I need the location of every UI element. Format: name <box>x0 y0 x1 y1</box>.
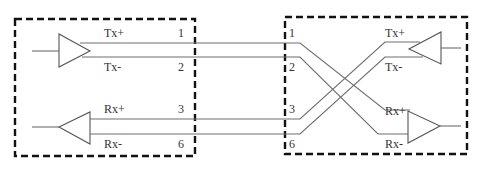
left-receiver-icon <box>59 112 90 144</box>
left-pin-6: 6 <box>178 137 184 151</box>
right-receiver-icon <box>408 111 440 143</box>
left-label-txplus: Tx+ <box>104 26 124 40</box>
wire-pin3-rxplus <box>90 42 420 119</box>
right-label-txminus: Tx- <box>385 60 402 74</box>
right-pin-3: 3 <box>289 102 295 116</box>
wire-pin1-txplus <box>80 43 410 110</box>
right-pin-2: 2 <box>289 60 295 74</box>
right-transmitter-icon <box>409 32 441 64</box>
right-pin-6: 6 <box>289 137 295 151</box>
left-pin-2: 2 <box>178 60 184 74</box>
left-label-rxminus: Rx- <box>104 137 122 151</box>
right-label-rxminus: Rx- <box>385 137 403 151</box>
right-label-txplus: Tx+ <box>385 26 405 40</box>
left-label-rxplus: Rx+ <box>104 102 125 116</box>
crossover-diagram: Tx+ Tx- Rx+ Rx- 1 2 3 6 1 2 3 6 Tx+ Tx- … <box>0 0 479 171</box>
left-label-txminus: Tx- <box>104 60 121 74</box>
right-label-rxplus: Rx+ <box>385 104 406 118</box>
left-transmitter-icon <box>59 34 90 67</box>
wire-pin6-rxminus <box>90 57 423 134</box>
wire-pin2-txminus <box>82 57 410 134</box>
right-pin-1: 1 <box>289 26 295 40</box>
left-pin-3: 3 <box>178 102 184 116</box>
left-pin-1: 1 <box>178 26 184 40</box>
